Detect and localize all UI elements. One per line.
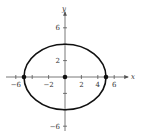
x-tick-label: 2 (79, 81, 83, 89)
y-tick-label: −6 (50, 123, 61, 131)
ellipse-graph: −6 −2 2 4 6 6 2 −6 x y (0, 0, 145, 137)
point-left-vertex (22, 75, 27, 80)
y-tick-label: 6 (56, 24, 61, 32)
point-center (63, 75, 68, 80)
y-tick-label: 2 (56, 57, 60, 65)
x-tick-label: 6 (112, 81, 117, 89)
x-tick-label: −2 (43, 81, 53, 89)
x-axis-label: x (131, 73, 135, 81)
point-right-vertex (104, 75, 109, 80)
x-tick-label: 4 (96, 81, 101, 89)
y-axis-label: y (61, 5, 67, 13)
x-tick-label: −6 (11, 81, 22, 89)
